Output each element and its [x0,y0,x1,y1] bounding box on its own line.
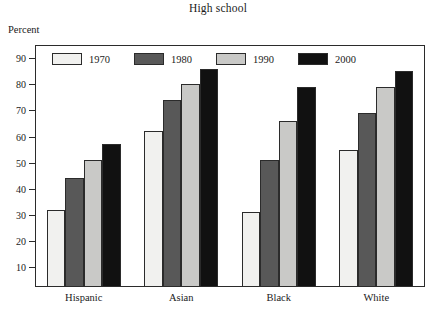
y-axis-tick-label: 40 [0,183,26,194]
bar [102,144,121,287]
bar [358,113,377,287]
y-axis-tick-label: 30 [0,210,26,221]
bar [181,84,200,287]
bar [260,160,279,287]
bar [163,100,182,287]
y-axis-tick-label: 90 [0,53,26,64]
bar [84,160,103,287]
y-axis-label: Percent [8,24,40,35]
y-axis-tick-label: 50 [0,157,26,168]
bar [339,150,358,287]
y-axis-tick-label: 70 [0,105,26,116]
y-axis-tick-label: 10 [0,262,26,273]
x-axis-category-label: White [363,292,389,303]
bar [65,178,84,287]
y-axis-tick-label: 60 [0,131,26,142]
bar [242,212,261,287]
bar [200,69,219,287]
bar [297,87,316,287]
chart-title: High school [0,2,436,14]
x-axis-category-label: Black [267,292,292,303]
x-axis-category-label: Asian [169,292,194,303]
bar [144,131,163,287]
x-axis-category-label: Hispanic [65,292,102,303]
y-axis-tick-label: 20 [0,236,26,247]
bars-layer [35,45,425,287]
bar [279,121,298,287]
bar [376,87,395,287]
bar [395,71,414,287]
y-axis-tick-label: 80 [0,79,26,90]
bar [47,210,66,287]
high-school-bar-chart: High school Percent 102030405060708090 1… [0,0,436,320]
